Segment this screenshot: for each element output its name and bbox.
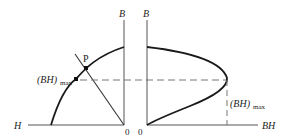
point-bhmax [74,77,78,81]
point-p [84,66,88,70]
left-b-label: B [119,8,125,19]
right-bhmax-sub: max [253,103,266,111]
left-origin-label: 0 [125,127,130,137]
point-p-label: P [83,53,89,64]
left-bhmax-sub: max [60,79,73,87]
load-line [75,54,124,125]
right-bhmax-label: (BH) [230,98,251,110]
left-bhmax-label: (BH) [37,74,58,86]
right-bh-label: BH [262,120,276,131]
bh-diagram: B H 0 P (BH) max B 0 BH (BH) max [0,0,289,139]
energy-product-curve [147,47,227,125]
right-origin-label: 0 [138,127,143,137]
left-h-label: H [13,120,22,131]
right-b-label: B [143,8,149,19]
